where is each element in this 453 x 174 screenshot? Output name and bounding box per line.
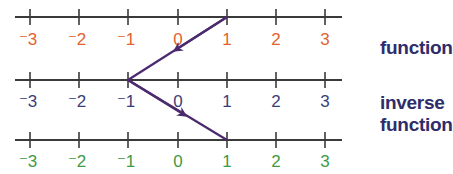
inverse-function-arrow	[128, 80, 227, 140]
tick-label: ⁻2	[68, 30, 86, 49]
tick-label: ⁻1	[117, 30, 135, 49]
tick-label: 3	[320, 92, 329, 111]
tick-label: 1	[222, 152, 231, 171]
tick-label: 2	[271, 30, 280, 49]
function-arrow	[128, 17, 227, 80]
inverse-function-label: inverse function	[380, 92, 453, 136]
tick-label: 3	[320, 152, 329, 171]
tick-label: 1	[222, 92, 231, 111]
tick-label: 2	[271, 152, 280, 171]
inverse-label-line1: inverse	[380, 92, 444, 113]
function-label: function	[380, 37, 453, 59]
function-label-text: function	[380, 37, 453, 58]
middle-number-line: ⁻3 ⁻2 ⁻1 0 1 2 3	[15, 72, 342, 111]
tick-label: ⁻3	[19, 152, 37, 171]
tick-label: ⁻1	[117, 92, 135, 111]
tick-label: ⁻3	[19, 92, 37, 111]
tick-label: 3	[320, 30, 329, 49]
bottom-number-line: ⁻3 ⁻2 ⁻1 0 1 2 3	[15, 132, 342, 171]
tick-label: 2	[271, 92, 280, 111]
tick-label: ⁻1	[117, 152, 135, 171]
inverse-label-line2: function	[380, 114, 453, 135]
tick-label: 1	[222, 30, 231, 49]
tick-label: ⁻2	[68, 92, 86, 111]
arrowhead-icon	[177, 17, 227, 49]
tick-label: ⁻2	[68, 152, 86, 171]
top-number-line: ⁻3 ⁻2 ⁻1 0 1 2 3	[15, 9, 342, 49]
tick-label: 0	[173, 152, 182, 171]
tick-label: ⁻3	[19, 30, 37, 49]
